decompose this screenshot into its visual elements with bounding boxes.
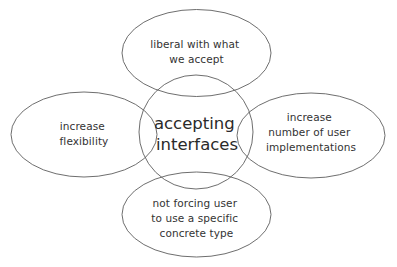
node-right-line-2: number of user (268, 126, 351, 138)
node-bottom-line-2: to use a specific (151, 212, 238, 224)
node-bottom: not forcing user to use a specific concr… (122, 172, 271, 257)
node-center-line-1: accepting (154, 114, 235, 133)
node-top: liberal with what we accept (122, 10, 271, 97)
node-center-line-2: interfaces (156, 135, 238, 154)
node-bottom-line-3: concrete type (160, 227, 234, 239)
node-center-label: accepting interfaces (154, 114, 240, 154)
node-bottom-line-1: not forcing user (152, 197, 237, 209)
node-right-line-3: implementations (266, 141, 356, 153)
node-right-label: increase number of user implementations (266, 111, 356, 153)
node-right: increase number of user implementations (237, 93, 385, 178)
node-top-line-1: liberal with what (150, 38, 239, 50)
node-left-label: increase flexibility (60, 120, 109, 147)
accepting-interfaces-diagram: liberal with what we accept increase fle… (0, 0, 397, 267)
node-left: increase flexibility (11, 92, 157, 177)
node-top-line-2: we accept (169, 53, 224, 65)
node-right-line-1: increase (287, 111, 332, 123)
node-top-label: liberal with what we accept (150, 38, 243, 65)
node-left-line-2: flexibility (60, 135, 109, 147)
node-left-line-1: increase (60, 120, 105, 132)
node-bottom-label: not forcing user to use a specific concr… (151, 197, 241, 239)
